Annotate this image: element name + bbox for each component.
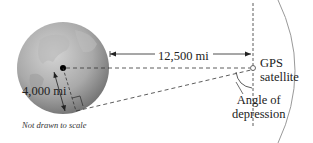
angle-label-line2: depression: [232, 107, 285, 121]
satellite-icon: [251, 66, 256, 71]
angle-label-line1: Angle of: [232, 93, 285, 107]
distance-label: 12,500 mi: [158, 50, 209, 63]
satellite-label: GPS satellite: [260, 56, 299, 84]
scale-note: Not drawn to scale: [22, 121, 86, 130]
radius-label: 4,000 mi: [22, 85, 66, 98]
gps-diagram: 12,500 mi 4,000 mi GPS satellite Angle o…: [0, 0, 313, 143]
satellite-label-line2: satellite: [260, 70, 299, 84]
satellite-label-line1: GPS: [260, 56, 299, 70]
angle-label: Angle of depression: [232, 93, 285, 121]
